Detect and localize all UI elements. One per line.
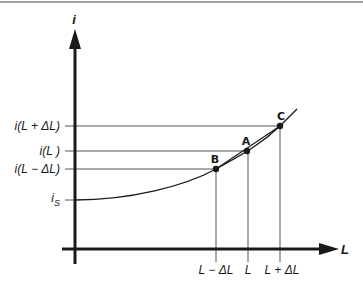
point-c (277, 123, 283, 129)
x-axis-label: L (341, 242, 349, 257)
y-axis-label: i (72, 12, 76, 27)
y-tick-i-L-plus-dL: i(L + ΔL) (14, 119, 60, 133)
point-b (213, 166, 219, 172)
y-tick-i-s-sub: S (54, 198, 60, 208)
y-tick-i-s: iS (51, 191, 60, 208)
x-tick-L-plus-dL: L + ΔL (265, 263, 300, 277)
x-tick-L-minus-dL: L − ΔL (199, 263, 234, 277)
point-a-label: A (242, 135, 251, 148)
x-axis-arrow-icon (319, 243, 339, 255)
point-a (244, 148, 250, 154)
characteristic-curve (75, 109, 297, 200)
y-tick-i-L: i(L ) (40, 144, 60, 158)
point-c-label: C (277, 110, 285, 123)
y-axis-arrow-icon (69, 29, 81, 49)
x-tick-L: L (245, 263, 252, 277)
point-b-label: B (211, 153, 219, 166)
y-tick-i-L-minus-dL: i(L − ΔL) (14, 162, 60, 176)
current-vs-length-diagram: B A C i L i(L + ΔL) i(L ) i(L − ΔL) iS L… (0, 0, 363, 290)
